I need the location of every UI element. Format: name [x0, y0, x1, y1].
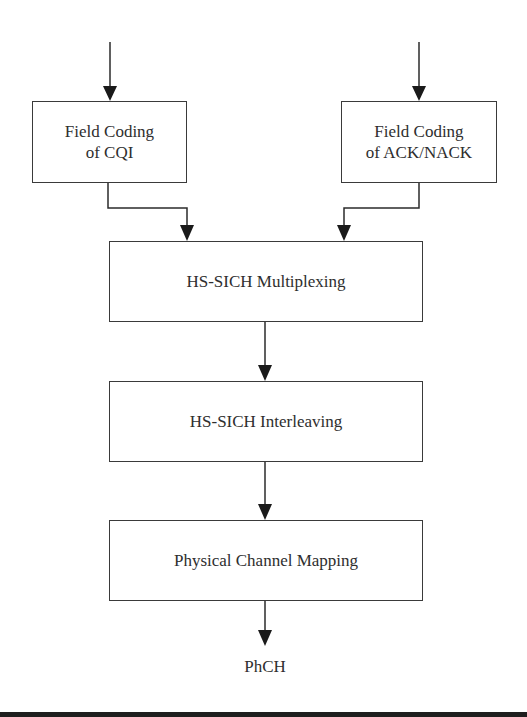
node-label: Field Coding of ACK/NACK: [366, 121, 472, 163]
phch-output-label: PhCH: [215, 657, 315, 677]
hs-sich-interleaving-box: HS-SICH Interleaving: [109, 381, 423, 462]
field-coding-cqi-box: Field Coding of CQI: [32, 101, 187, 183]
node-label: HS-SICH Interleaving: [190, 411, 343, 432]
ack-to-mux-connector: [344, 183, 419, 228]
arrowhead-icon: [258, 504, 272, 520]
arrowhead-icon: [258, 630, 272, 646]
arrowhead-icon: [337, 225, 351, 241]
hs-sich-multiplexing-box: HS-SICH Multiplexing: [109, 241, 423, 322]
node-label: Physical Channel Mapping: [174, 550, 358, 571]
cqi-to-mux-connector: [108, 183, 187, 228]
node-label: Field Coding of CQI: [65, 121, 154, 163]
arrowhead-icon: [103, 86, 117, 101]
flow-diagram: Field Coding of CQI Field Coding of ACK/…: [0, 0, 527, 717]
arrowhead-icon: [412, 86, 426, 101]
physical-channel-mapping-box: Physical Channel Mapping: [109, 520, 423, 601]
arrowhead-icon: [180, 225, 194, 241]
field-coding-ack-nack-box: Field Coding of ACK/NACK: [341, 101, 497, 183]
arrowhead-icon: [258, 365, 272, 381]
node-label: HS-SICH Multiplexing: [186, 271, 345, 292]
bottom-border-bar: [0, 712, 527, 717]
